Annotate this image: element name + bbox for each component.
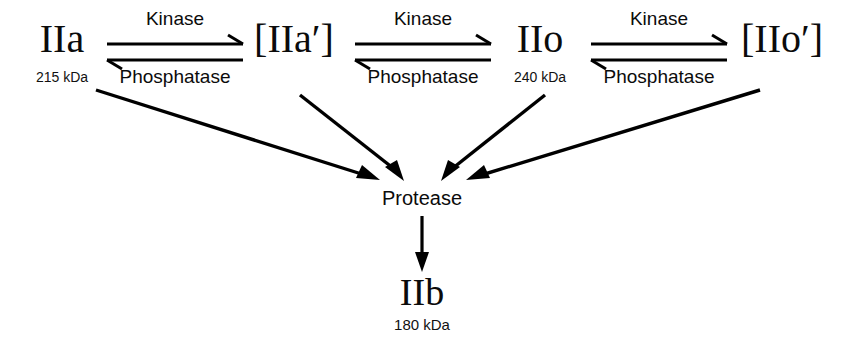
species-label-IIa-prime: [IIa′]: [254, 16, 334, 61]
species-mass-IIo: 240 kDa: [514, 69, 566, 85]
protease-node-label: Protease: [382, 187, 462, 209]
species-label-IIo: IIo: [517, 16, 564, 61]
pathway-diagram: Kinase Phosphatase Kinase Phosphatase Ki…: [0, 0, 847, 347]
reaction-group-1: Kinase Phosphatase: [107, 8, 243, 87]
reaction-2-forward-label: Kinase: [394, 8, 452, 29]
reaction-1-reverse-label: Phosphatase: [120, 66, 231, 87]
reaction-1-forward-label: Kinase: [146, 8, 204, 29]
converging-arrow-from-IIo-prime: [466, 90, 760, 180]
converging-arrow-from-IIa-shaft: [96, 90, 371, 177]
protease-to-product-arrow: [415, 216, 429, 272]
converging-arrow-from-IIo-prime-head: [466, 165, 490, 180]
converging-arrow-from-IIo: [441, 95, 545, 181]
reaction-3-forward-label: Kinase: [630, 8, 688, 29]
reaction-group-2: Kinase Phosphatase: [355, 8, 491, 87]
reaction-2-reverse-label: Phosphatase: [368, 66, 479, 87]
species-label-IIo-prime: [IIo′]: [741, 16, 823, 61]
product-mass-IIb: 180 kDa: [394, 316, 451, 333]
converging-arrow-from-IIa-head: [356, 165, 380, 180]
species-mass-IIa: 215 kDa: [36, 69, 88, 85]
converging-arrow-from-IIa: [96, 90, 380, 180]
species-label-IIa: IIa: [40, 16, 85, 61]
converging-arrow-from-IIa-prime: [300, 95, 404, 181]
product-label-IIb: IIb: [400, 271, 444, 313]
protease-to-product-arrow-head: [415, 252, 429, 272]
pathway-svg-canvas: Kinase Phosphatase Kinase Phosphatase Ki…: [0, 0, 847, 347]
reaction-group-3: Kinase Phosphatase: [591, 8, 727, 87]
reaction-3-reverse-label: Phosphatase: [604, 66, 715, 87]
converging-arrow-from-IIo-prime-shaft: [475, 90, 760, 177]
